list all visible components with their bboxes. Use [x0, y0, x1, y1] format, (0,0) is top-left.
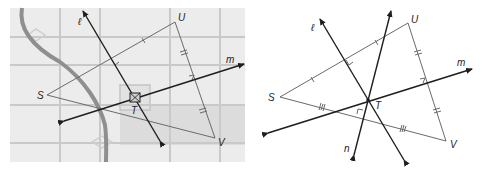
label-s: S [268, 92, 275, 103]
label-m: m [226, 54, 234, 65]
diagram-canvas: S U V T ℓ m S [0, 0, 482, 170]
label-u: U [178, 12, 186, 23]
label-n: n [344, 143, 350, 154]
shaded-block [120, 105, 245, 145]
label-t: T [131, 105, 138, 116]
congruence-ticks [311, 40, 441, 132]
point-t-building [130, 93, 140, 102]
label-v: V [450, 139, 458, 150]
point-t [366, 98, 370, 102]
label-m: m [457, 57, 465, 68]
label-t: T [375, 100, 382, 111]
label-s: S [37, 90, 44, 101]
right-geometry-figure: S U V T ℓ m n [268, 11, 472, 160]
line-l [320, 19, 404, 160]
left-map-figure: S U V T ℓ m [10, 8, 245, 162]
label-u: U [411, 14, 419, 25]
triangle-suv [280, 23, 446, 141]
line-m [268, 69, 472, 133]
line-n [354, 11, 391, 155]
label-l: ℓ [310, 22, 315, 33]
